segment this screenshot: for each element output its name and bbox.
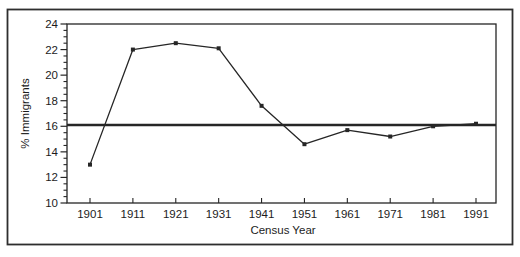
y-tick-label: 12 (45, 171, 58, 183)
data-point-marker (260, 104, 264, 108)
data-point-marker (474, 122, 478, 126)
x-tick-label: 1991 (463, 208, 489, 220)
x-tick-label: 1951 (292, 208, 318, 220)
x-tick-label: 1901 (77, 208, 103, 220)
y-axis-title: % Immigrants (19, 78, 31, 149)
data-point-marker (88, 163, 92, 167)
x-tick-label: 1961 (335, 208, 361, 220)
x-tick-label: 1911 (121, 208, 146, 220)
x-tick-label: 1941 (249, 208, 275, 220)
y-tick-label: 10 (45, 197, 58, 209)
data-point-marker (131, 48, 135, 52)
x-tick-label: 1981 (420, 208, 446, 220)
y-tick-label: 20 (45, 69, 58, 81)
y-tick-label: 24 (45, 18, 58, 30)
y-tick-label: 14 (45, 146, 58, 158)
y-tick-label: 22 (45, 44, 58, 56)
data-point-marker (302, 142, 306, 146)
x-tick-label: 1921 (163, 208, 189, 220)
line-chart: 1012141618202224190119111921193119411951… (0, 0, 520, 257)
figure-frame: 1012141618202224190119111921193119411951… (0, 0, 520, 257)
data-point-marker (174, 41, 178, 45)
x-tick-label: 1931 (206, 208, 232, 220)
x-axis-title: Census Year (250, 224, 315, 236)
y-tick-label: 16 (45, 120, 58, 132)
y-tick-label: 18 (45, 95, 58, 107)
data-point-marker (217, 46, 221, 50)
data-point-marker (345, 128, 349, 132)
x-tick-label: 1971 (377, 208, 403, 220)
data-point-marker (388, 135, 392, 139)
data-point-marker (431, 124, 435, 128)
